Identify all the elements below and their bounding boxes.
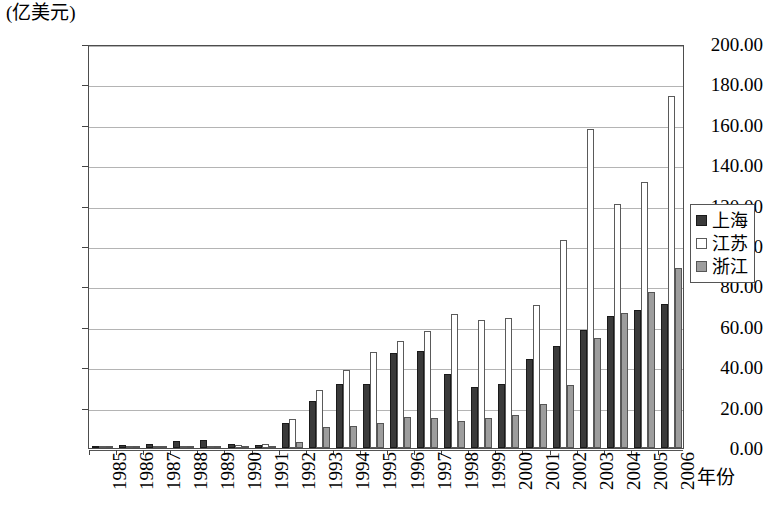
x-axis-tick-label: 1999: [489, 452, 508, 490]
bar-group: [309, 46, 330, 448]
bar: [478, 320, 485, 448]
x-axis-tick-label: 1986: [137, 452, 156, 490]
bar-group: [255, 46, 276, 448]
y-axis-tick-label: 160.00: [679, 116, 763, 135]
bar: [634, 310, 641, 448]
bar: [526, 359, 533, 448]
bar-group: [607, 46, 628, 448]
x-axis-tick-label: 1987: [164, 452, 183, 490]
x-axis-tick-label: 2006: [678, 452, 697, 490]
bar-group: [580, 46, 601, 448]
y-axis-tick-mark: [82, 409, 88, 410]
y-axis-tick-mark: [82, 287, 88, 288]
bar-group: [553, 46, 574, 448]
bar: [255, 445, 262, 448]
bar: [133, 446, 140, 448]
x-axis-tick-label: 1988: [191, 452, 210, 490]
bar: [505, 318, 512, 448]
bar-group: [634, 46, 655, 448]
bar: [323, 427, 330, 448]
bar: [424, 331, 431, 448]
bar: [146, 444, 153, 448]
legend-item: 江苏: [696, 232, 748, 255]
x-axis-tick-label: 1989: [218, 452, 237, 490]
bar-group: [173, 46, 194, 448]
legend-item: 上海: [696, 209, 748, 232]
y-axis-tick-mark: [82, 85, 88, 86]
legend-swatch-icon: [696, 215, 707, 226]
bar-group: [417, 46, 438, 448]
legend-item-label: 浙江: [712, 258, 748, 276]
bar: [560, 240, 567, 448]
bar: [498, 384, 505, 448]
bar: [540, 404, 547, 448]
legend-item-label: 上海: [712, 212, 748, 230]
bar: [207, 446, 214, 448]
bar: [242, 446, 249, 448]
y-axis-tick-mark: [82, 247, 88, 248]
bar: [282, 423, 289, 448]
bar-group: [228, 46, 249, 448]
bar: [614, 204, 621, 448]
x-axis-tick-label: 2002: [570, 452, 589, 490]
bar: [404, 417, 411, 448]
y-axis-tick-label: 180.00: [679, 75, 763, 94]
bar-group: [498, 46, 519, 448]
bar: [431, 418, 438, 449]
bar: [92, 446, 99, 448]
bar: [173, 441, 180, 448]
bar: [607, 316, 614, 448]
x-axis-tick-label: 1993: [326, 452, 345, 490]
chart-plot-area: [88, 45, 684, 449]
bar-group: [92, 46, 113, 448]
legend-swatch-icon: [696, 238, 707, 249]
x-axis-tick-label: 2001: [543, 452, 562, 490]
bar: [390, 353, 397, 448]
bar: [471, 387, 478, 448]
legend-item: 浙江: [696, 255, 748, 278]
x-axis-tick-label: 1985: [110, 452, 129, 490]
bar: [214, 446, 221, 448]
y-axis-tick-label: 140.00: [679, 156, 763, 175]
bar: [668, 96, 675, 448]
gridline: [89, 450, 683, 451]
bar: [587, 129, 594, 448]
bars-layer: [89, 46, 683, 448]
bar: [106, 446, 113, 448]
bar: [512, 415, 519, 448]
bar-group: [363, 46, 384, 448]
bar: [187, 446, 194, 448]
y-axis-tick-mark: [82, 328, 88, 329]
legend-item-label: 江苏: [712, 235, 748, 253]
bar-group: [336, 46, 357, 448]
bar: [458, 421, 465, 448]
y-axis-tick-mark: [82, 368, 88, 369]
bar: [160, 446, 167, 448]
bar: [621, 313, 628, 448]
x-axis-tick-label: 1991: [272, 452, 291, 490]
bar: [262, 444, 269, 448]
bar: [370, 352, 377, 448]
bar-group: [471, 46, 492, 448]
bar-group: [390, 46, 411, 448]
bar: [363, 384, 370, 448]
bar: [343, 370, 350, 448]
bar: [397, 341, 404, 448]
bar: [417, 351, 424, 448]
y-axis-tick-label: 40.00: [679, 358, 763, 377]
bar: [553, 346, 560, 448]
y-axis-tick-mark: [82, 166, 88, 167]
chart-legend: 上海江苏浙江: [690, 204, 755, 283]
x-axis-tick-label: 2000: [516, 452, 535, 490]
bar: [350, 426, 357, 448]
bar: [661, 304, 668, 448]
bar: [153, 446, 160, 448]
bar: [648, 292, 655, 448]
x-axis-tick-label: 1995: [380, 452, 399, 490]
bar: [269, 446, 276, 448]
bar: [309, 401, 316, 448]
x-axis-tick-label: 1996: [408, 452, 427, 490]
bar-group: [119, 46, 140, 448]
bar: [296, 442, 303, 448]
bar: [377, 423, 384, 448]
